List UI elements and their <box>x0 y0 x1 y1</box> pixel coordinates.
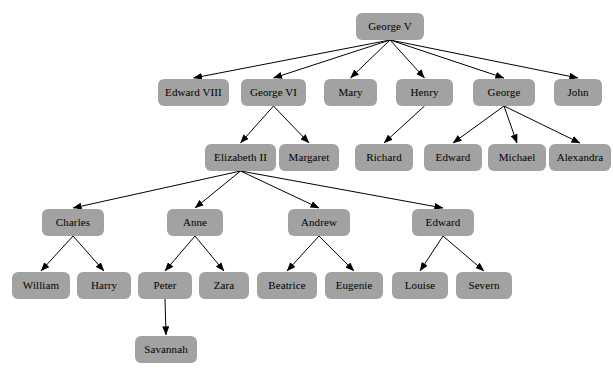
node-edward_e[interactable]: Edward <box>412 209 474 236</box>
node-peter[interactable]: Peter <box>138 272 192 299</box>
node-savannah[interactable]: Savannah <box>135 336 197 363</box>
node-edward_g[interactable]: Edward <box>424 144 482 171</box>
edge-george_v-to-john <box>390 40 578 78</box>
edge-edward_e-to-louise <box>420 236 443 271</box>
edge-george_v-to-edward_viii <box>194 40 391 78</box>
edge-elizabeth_ii-to-andrew <box>241 171 320 208</box>
node-eugenie[interactable]: Eugenie <box>325 272 383 299</box>
node-charles[interactable]: Charles <box>42 209 104 236</box>
edge-george-to-edward_g <box>453 106 504 143</box>
node-michael[interactable]: Michael <box>488 144 546 171</box>
edge-elizabeth_ii-to-anne <box>195 171 241 208</box>
node-edward_viii[interactable]: Edward VIII <box>158 79 229 106</box>
edge-charles-to-william <box>41 236 73 271</box>
edge-george-to-michael <box>504 106 517 143</box>
edge-charles-to-harry <box>73 236 104 271</box>
family-tree-diagram: George VEdward VIIIGeorge VIMaryHenryGeo… <box>0 0 613 378</box>
node-john[interactable]: John <box>554 79 602 106</box>
edge-george_v-to-mary <box>351 40 391 78</box>
edge-anne-to-peter <box>165 236 195 271</box>
node-severn[interactable]: Severn <box>456 272 512 299</box>
node-richard[interactable]: Richard <box>355 144 413 171</box>
node-beatrice[interactable]: Beatrice <box>257 272 317 299</box>
node-louise[interactable]: Louise <box>392 272 448 299</box>
edge-edward_e-to-severn <box>443 236 484 271</box>
node-george_v[interactable]: George V <box>356 13 424 40</box>
node-harry[interactable]: Harry <box>77 272 131 299</box>
node-elizabeth_ii[interactable]: Elizabeth II <box>205 144 276 171</box>
node-zara[interactable]: Zara <box>199 272 249 299</box>
node-margaret[interactable]: Margaret <box>279 144 339 171</box>
edge-henry-to-richard <box>384 106 425 143</box>
edge-george_v-to-george_vi <box>274 40 391 78</box>
edge-andrew-to-beatrice <box>287 236 319 271</box>
node-william[interactable]: William <box>12 272 70 299</box>
edge-george_vi-to-elizabeth_ii <box>241 106 274 143</box>
node-mary[interactable]: Mary <box>324 79 377 106</box>
node-andrew[interactable]: Andrew <box>288 209 350 236</box>
edge-anne-to-zara <box>195 236 224 271</box>
edge-george_v-to-henry <box>390 40 425 78</box>
node-anne[interactable]: Anne <box>167 209 223 236</box>
edge-peter-to-savannah <box>165 299 166 335</box>
node-henry[interactable]: Henry <box>396 79 453 106</box>
edge-george_vi-to-margaret <box>274 106 310 143</box>
node-george_vi[interactable]: George VI <box>241 79 306 106</box>
edge-george_v-to-george <box>390 40 504 78</box>
edge-george-to-alexandra <box>504 106 580 143</box>
node-george[interactable]: George <box>473 79 535 106</box>
edge-elizabeth_ii-to-edward_e <box>241 171 444 208</box>
node-alexandra[interactable]: Alexandra <box>549 144 611 171</box>
edge-elizabeth_ii-to-charles <box>73 171 241 208</box>
edge-andrew-to-eugenie <box>319 236 354 271</box>
edge-layer <box>0 0 613 378</box>
